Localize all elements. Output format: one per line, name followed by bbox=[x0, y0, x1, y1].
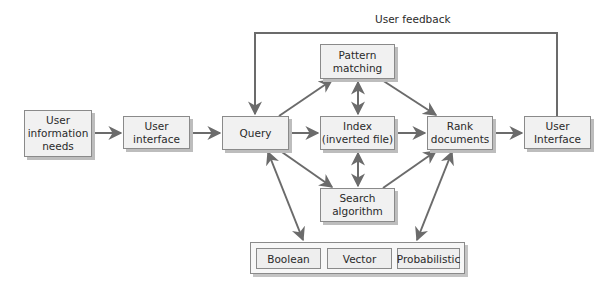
node-user-information-needs: User information needs bbox=[24, 110, 92, 157]
node-pattern-matching: Pattern matching bbox=[320, 44, 395, 79]
node-label: Index (inverted file) bbox=[322, 120, 393, 146]
edge-query-models bbox=[268, 152, 303, 240]
node-label: Search algorithm bbox=[332, 192, 383, 218]
edge-rank-models bbox=[417, 152, 452, 240]
ir-system-diagram: User feedback User information needs Use… bbox=[0, 0, 616, 290]
node-rank-documents: Rank documents bbox=[427, 116, 493, 150]
node-user-interface-input: User interface bbox=[123, 116, 190, 149]
node-label: User Interface bbox=[534, 120, 581, 146]
edge-pattern-to-rank bbox=[382, 80, 436, 115]
edge-user-feedback bbox=[255, 33, 557, 116]
node-search-algorithm: Search algorithm bbox=[320, 188, 395, 222]
node-label: Query bbox=[240, 127, 272, 140]
node-label: User information needs bbox=[28, 114, 89, 153]
node-label: User interface bbox=[133, 120, 180, 146]
user-feedback-label: User feedback bbox=[375, 13, 451, 25]
model-vector: Vector bbox=[327, 248, 392, 269]
edge-query-to-pattern bbox=[279, 80, 332, 116]
node-label: Rank documents bbox=[431, 120, 489, 146]
edge-search-to-rank bbox=[383, 151, 436, 188]
node-label: Pattern matching bbox=[333, 49, 382, 75]
edge-query-to-search bbox=[279, 150, 332, 187]
node-query: Query bbox=[222, 116, 289, 150]
model-probabilistic: Probabilistic bbox=[397, 248, 460, 269]
node-user-interface-output: User Interface bbox=[524, 116, 591, 149]
model-boolean: Boolean bbox=[256, 248, 321, 269]
node-index-inverted-file: Index (inverted file) bbox=[320, 116, 395, 150]
retrieval-models-group: Boolean Vector Probabilistic bbox=[250, 242, 465, 274]
